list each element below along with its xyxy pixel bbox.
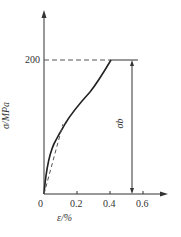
x-axis-label: ε/% [57,212,72,223]
x-tick-0.4: 0.4 [103,198,116,209]
arrow-up-icon [130,60,134,66]
sigma-b-label: σb [114,119,125,129]
y-tick-200: 200 [25,54,40,65]
x-axis-arrow-icon [160,192,168,197]
y-axis-label: σ/MPa [0,102,11,129]
x-tick-0: 0 [38,198,43,209]
y-axis-arrow-icon [42,10,47,18]
stress-strain-curve [44,60,111,194]
x-tick-0.6: 0.6 [136,198,149,209]
secant-line [44,124,63,194]
x-tick-0.2: 0.2 [70,198,83,209]
arrow-down-icon [130,188,134,194]
stress-strain-chart [0,0,181,237]
